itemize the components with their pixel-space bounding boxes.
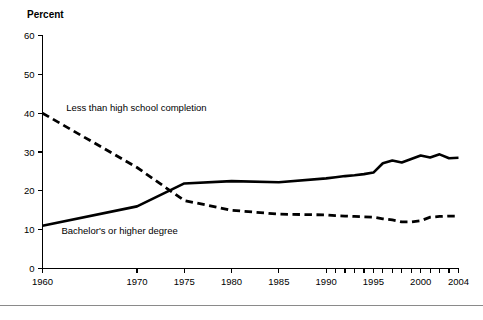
y-tick-label-30: 30 bbox=[24, 147, 35, 158]
y-tick-label-50: 50 bbox=[24, 69, 35, 80]
x-tick-label-1985: 1985 bbox=[268, 276, 289, 287]
y-tick-label-0: 0 bbox=[29, 263, 34, 274]
series-label-less-than-high-school: Less than high school completion bbox=[66, 102, 206, 113]
x-tick-label-2004: 2004 bbox=[448, 276, 469, 287]
y-tick-label-40: 40 bbox=[24, 108, 35, 119]
line-chart: Percent 0102030405060 196019701975198019… bbox=[0, 0, 483, 320]
series-annotations: Less than high school completionBachelor… bbox=[61, 102, 206, 235]
x-tick-label-1960: 1960 bbox=[32, 276, 53, 287]
y-tick-label-10: 10 bbox=[24, 224, 35, 235]
y-tick-label-60: 60 bbox=[24, 30, 35, 41]
x-tick-label-1990: 1990 bbox=[316, 276, 337, 287]
footer-divider bbox=[0, 305, 483, 306]
x-tick-label-1975: 1975 bbox=[174, 276, 195, 287]
x-tick-label-1970: 1970 bbox=[126, 276, 147, 287]
y-tick-label-20: 20 bbox=[24, 185, 35, 196]
series-line-less-than-high-school bbox=[43, 113, 459, 222]
x-tick-label-1995: 1995 bbox=[363, 276, 384, 287]
series-label-bachelors-or-higher: Bachelor's or higher degree bbox=[61, 225, 177, 236]
y-axis-tick-labels: 0102030405060 bbox=[24, 30, 35, 274]
series-line-bachelors-or-higher bbox=[43, 154, 459, 225]
y-axis-title: Percent bbox=[27, 9, 64, 20]
x-axis-tick-labels: 196019701975198019851990199520002004 bbox=[32, 276, 469, 287]
x-tick-label-1980: 1980 bbox=[221, 276, 242, 287]
x-tick-label-2000: 2000 bbox=[410, 276, 431, 287]
chart-figure: Percent 0102030405060 196019701975198019… bbox=[0, 0, 483, 320]
